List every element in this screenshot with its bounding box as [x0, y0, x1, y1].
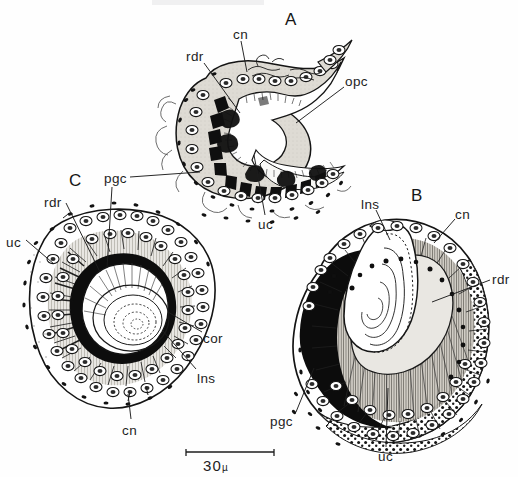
label-rdr-panel-b: rdr	[492, 273, 510, 287]
label-cn-panel-c: cn	[122, 424, 137, 438]
scalebar-caption: 30µ	[203, 457, 228, 474]
label-cor-panel-c: cor	[203, 332, 223, 346]
label-rdr-panel-a: rdr	[186, 50, 204, 64]
scalebar-unit: µ	[222, 462, 228, 473]
scalebar-graphic	[186, 449, 274, 456]
figure-artwork	[0, 0, 518, 477]
label-uc-panel-b: uc	[378, 450, 393, 464]
panel-letter-b: B	[411, 187, 423, 204]
label-pgc-shared: pgc	[104, 172, 127, 186]
panel-b-drawing	[291, 219, 490, 453]
scientific-figure: A B C cn rdr opc uc pgc rdr uc cor lns c…	[0, 0, 518, 477]
label-uc-panel-a: uc	[258, 218, 273, 232]
label-rdr-panel-c: rdr	[44, 196, 62, 210]
label-cn-panel-a: cn	[233, 28, 248, 42]
label-opc-panel-a: opc	[345, 75, 368, 89]
label-cn-panel-b: cn	[455, 208, 470, 222]
label-lns-panel-c: lns	[197, 372, 215, 386]
label-pgc-panel-b: pgc	[270, 415, 293, 429]
panel-a-drawing	[156, 40, 352, 224]
panel-letter-a: A	[285, 11, 297, 28]
panel-c-drawing	[22, 201, 215, 408]
label-lns-panel-b: lns	[361, 198, 379, 212]
scalebar-value: 30	[203, 457, 222, 474]
panel-letter-c: C	[69, 172, 82, 189]
label-uc-panel-c: uc	[6, 236, 21, 250]
